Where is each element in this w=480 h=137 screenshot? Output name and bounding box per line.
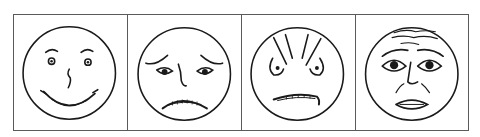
panel-angry: Angry face [242, 15, 356, 130]
emotion-faces-strip: Happy face [13, 14, 469, 131]
panel-happy: Happy face [14, 15, 128, 130]
panel-afraid: Afraid / distressed face [356, 15, 469, 130]
sad-face-icon [128, 15, 242, 130]
angry-face-icon [242, 15, 355, 130]
happy-face-icon [14, 15, 127, 130]
panel-sad: Sad / worried face [128, 15, 243, 130]
afraid-face-icon [356, 15, 469, 130]
